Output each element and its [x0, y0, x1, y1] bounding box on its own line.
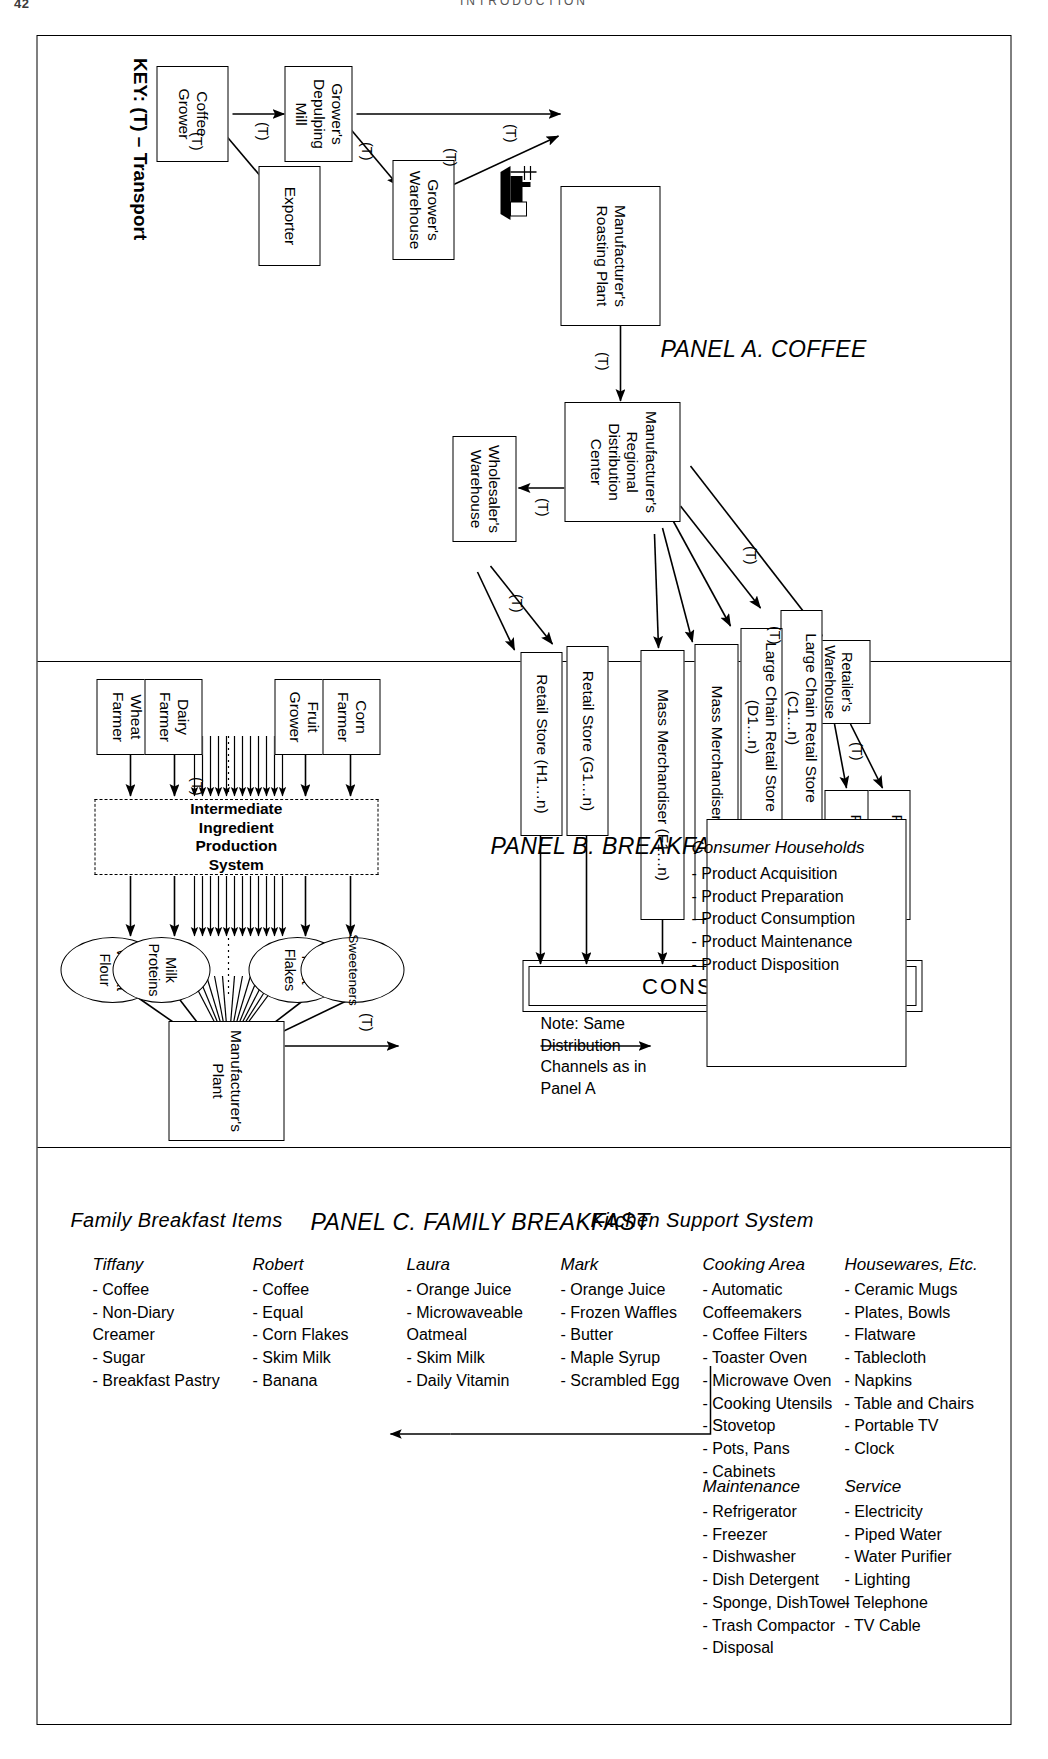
- list-item: - Product Maintenance: [692, 931, 892, 954]
- t-label-wholesaler-retail: (T): [509, 594, 525, 613]
- list-item: - Flatware: [845, 1324, 1048, 1347]
- ship-icon: [499, 158, 541, 228]
- rotated-figure-wrapper: PANEL A. COFFEE KEY: (T) – Transport Cof…: [37, 35, 1012, 1725]
- t-label-warehouse-roasting: (T): [443, 148, 459, 167]
- panel-c: PANEL C. FAMILY BREAKFAST Family Breakfa…: [38, 1147, 1011, 1726]
- list-item: - Piped Water: [845, 1523, 1048, 1546]
- list-item: - Water Purifier: [845, 1546, 1048, 1569]
- node-dairy-farmer: Dairy Farmer: [145, 679, 203, 755]
- oval-sweeteners: Sweeteners: [301, 937, 405, 1003]
- list-item: - Product Disposition: [692, 953, 892, 976]
- oval-milk-proteins: Milk Proteins: [113, 937, 211, 1003]
- consumer-households-box: Consumer Households - Product Acquisitio…: [707, 819, 907, 1067]
- list-item: - Electricity: [845, 1501, 1048, 1524]
- list-item: - Portable TV: [845, 1415, 1048, 1438]
- node-exporter: Exporter: [259, 166, 321, 266]
- node-regional-dc: Manufacturer's Regional Distribution Cen…: [565, 402, 681, 522]
- intermediate-system-box: Intermediate Ingredient Production Syste…: [95, 799, 379, 875]
- node-growers-warehouse: Grower's Warehouse: [393, 160, 455, 260]
- column-list: - Ceramic Mugs - Plates, Bowls - Flatwar…: [845, 1279, 1048, 1461]
- node-corn-farmer: Corn Farmer: [323, 679, 381, 755]
- list-item: - Product Acquisition: [692, 863, 892, 886]
- node-depulping-mill: Grower's Depulping Mill: [285, 66, 353, 162]
- t-label-mill-roasting: (T): [503, 124, 519, 143]
- list-item: - Napkins: [845, 1369, 1048, 1392]
- t-label-ovals-plant: (T): [359, 1013, 375, 1032]
- consumer-households-heading: Consumer Households: [692, 838, 892, 858]
- panel-b: PANEL B. BREAKFAST PASTRY Wheat Farmer D…: [38, 661, 1011, 1147]
- list-item: - Table and Chairs: [845, 1392, 1048, 1415]
- panel-a-title: PANEL A. COFFEE: [661, 336, 867, 363]
- panel-c-column-service: Service - Electricity - Piped Water - Wa…: [845, 1477, 1048, 1637]
- column-heading: Service: [845, 1477, 1048, 1497]
- list-item: - Tablecloth: [845, 1347, 1048, 1370]
- t-label-grower-mill: (T): [255, 122, 271, 141]
- t-label-dc-retailer: (T): [743, 546, 759, 565]
- section-family-breakfast-items: Family Breakfast Items: [71, 1209, 283, 1232]
- t-label-dc-wholesaler: (T): [535, 498, 551, 517]
- consumer-households-list: - Product Acquisition - Product Preparat…: [692, 863, 892, 977]
- list-item: - Lighting: [845, 1569, 1048, 1592]
- node-wholesalers-warehouse: Wholesaler's Warehouse: [453, 436, 517, 542]
- list-item: - TV Cable: [845, 1614, 1048, 1637]
- list-item: - Telephone: [845, 1591, 1048, 1614]
- node-manufacturers-plant: Manufacturer's Plant: [169, 1021, 285, 1141]
- list-item: - Plates, Bowls: [845, 1301, 1048, 1324]
- t-label-dc-chain: (T): [767, 626, 783, 645]
- column-list: - Electricity - Piped Water - Water Puri…: [845, 1501, 1048, 1637]
- figure-frame: PANEL A. COFFEE KEY: (T) – Transport Cof…: [37, 35, 1012, 1725]
- list-item: - Ceramic Mugs: [845, 1279, 1048, 1302]
- t-label-mill-warehouse: (T): [359, 142, 375, 161]
- list-item: - Product Preparation: [692, 885, 892, 908]
- panel-a: PANEL A. COFFEE KEY: (T) – Transport Cof…: [38, 36, 1011, 661]
- intermediate-system-label: Intermediate Ingredient Production Syste…: [190, 799, 282, 873]
- running-head: INTRODUCTION: [0, 0, 1048, 8]
- list-item: - Disposal: [703, 1637, 953, 1660]
- list-item: - Clock: [845, 1438, 1048, 1461]
- panel-c-column-housewares: Housewares, Etc. - Ceramic Mugs - Plates…: [845, 1255, 1048, 1461]
- section-kitchen-support-system: Kitchen Support System: [591, 1209, 814, 1232]
- column-heading: Housewares, Etc.: [845, 1255, 1048, 1275]
- node-roasting-plant: Manufacturer's Roasting Plant: [561, 186, 661, 326]
- t-label-roasting-dc: (T): [595, 352, 611, 371]
- key-legend: KEY: (T) – Transport: [129, 58, 151, 240]
- list-item: - Product Consumption: [692, 908, 892, 931]
- t-label-grower-exporter: (T): [189, 132, 205, 151]
- t-label-farmers-system: (T): [189, 777, 205, 796]
